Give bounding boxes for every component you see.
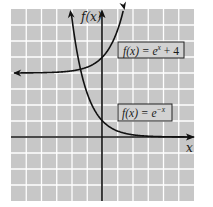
annotation-exp-neg-x: f(x) = e−x	[118, 104, 172, 121]
annotation-1-suffix: + 4	[161, 45, 179, 57]
annotation-1-prefix: f(x) = e	[123, 45, 158, 58]
annotation-exp-plus-4: f(x) = ex + 4	[118, 42, 184, 58]
svg-text:f(x) = ex + 4: f(x) = ex + 4	[123, 43, 179, 58]
annotation-2-exponent: −x	[157, 105, 166, 114]
function-graph: f(x) x f(x) = ex + 4 f(x) = e−x	[0, 0, 213, 207]
y-axis-label: f(x)	[80, 10, 102, 24]
annotation-2-prefix: f(x) = e	[122, 107, 157, 120]
x-axis-label: x	[186, 141, 193, 155]
